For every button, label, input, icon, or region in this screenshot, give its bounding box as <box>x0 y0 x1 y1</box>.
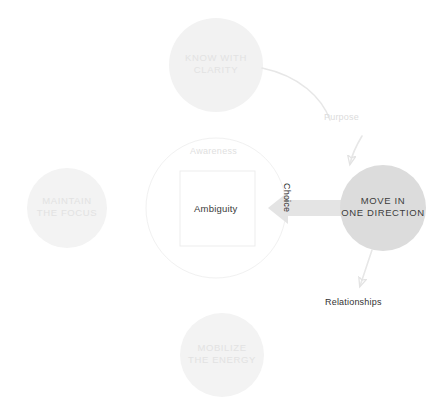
purpose-edge-label: Purpose <box>324 112 359 122</box>
purpose-arrow-path-lower <box>350 136 362 164</box>
ambiguity-label: Ambiguity <box>194 203 238 214</box>
diagram-canvas: KNOW WITH CLARITY MAINTAIN THE FOCUS MOB… <box>0 0 441 417</box>
choice-block-arrow <box>268 192 352 224</box>
mobilize-the-energy-circle[interactable] <box>180 313 264 397</box>
relationships-edge-label: Relationships <box>325 297 382 307</box>
know-with-clarity-circle[interactable] <box>169 18 263 112</box>
maintain-the-focus-circle[interactable] <box>27 168 107 248</box>
choice-edge-label: Choice <box>282 183 292 212</box>
relationships-arrow-path <box>360 250 372 286</box>
move-in-one-direction-circle[interactable] <box>340 165 426 251</box>
awareness-label: Awareness <box>190 146 237 156</box>
purpose-arrow-path <box>262 68 330 120</box>
